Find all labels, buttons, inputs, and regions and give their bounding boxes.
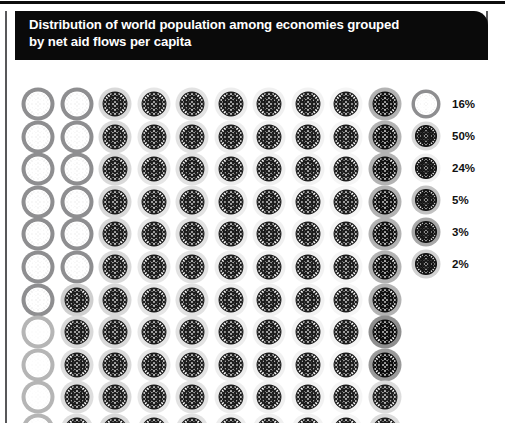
pictogram-globe-icon [329,380,363,414]
pictogram-globe-icon [368,250,402,284]
pictogram-globe-icon [60,380,94,414]
pictogram-globe-icon [60,120,94,154]
pictogram-globe-icon [175,315,209,349]
pictogram-globe-icon [368,120,402,154]
pictogram-globe-icon [329,185,363,219]
pictogram-globe-icon [60,87,94,121]
pictogram-globe-icon [137,250,171,284]
pictogram-globe-icon [175,348,209,382]
pictogram-globe-icon [175,380,209,414]
pictogram-globe-icon [137,413,171,423]
pictogram-globe-icon [21,217,55,251]
pictogram-globe-icon [368,217,402,251]
pictogram-globe-icon [252,283,286,317]
pictogram-globe-icon [137,152,171,186]
pictogram-globe-icon [98,152,132,186]
pictogram-globe-icon [21,315,55,349]
pictogram-globe-icon [368,348,402,382]
legend-item-label: 24% [452,162,475,174]
pictogram-globe-icon [60,152,94,186]
pictogram-globe-icon [329,413,363,423]
pictogram-globe-icon [291,348,325,382]
pictogram-globe-icon [214,348,248,382]
pictogram-globe-icon [137,283,171,317]
globe-icon [411,185,441,215]
pictogram-globe-icon [252,185,286,219]
pictogram-globe-icon [137,348,171,382]
pictogram-globe-icon [60,250,94,284]
chart-header: Distribution of world population among e… [15,11,488,60]
pictogram-grid [21,87,406,423]
legend-item: 3% [411,216,505,248]
pictogram-globe-icon [175,283,209,317]
legend-item-label: 16% [452,98,475,110]
pictogram-globe-icon [137,185,171,219]
globe-icon [411,217,441,247]
pictogram-globe-icon [60,348,94,382]
pictogram-globe-icon [291,120,325,154]
pictogram-globe-icon [214,217,248,251]
pictogram-globe-icon [368,152,402,186]
legend-item-label: 5% [452,194,469,206]
pictogram-globe-icon [137,380,171,414]
pictogram-globe-icon [175,217,209,251]
pictogram-globe-icon [291,380,325,414]
pictogram-globe-icon [214,380,248,414]
pictogram-globe-icon [291,250,325,284]
pictogram-globe-icon [368,315,402,349]
legend-item-label: 3% [452,226,469,238]
pictogram-globe-icon [98,250,132,284]
pictogram-globe-icon [175,120,209,154]
pictogram-globe-icon [329,217,363,251]
pictogram-globe-icon [98,413,132,423]
pictogram-globe-icon [291,283,325,317]
pictogram-globe-icon [21,185,55,219]
legend-item: 50% [411,120,505,152]
pictogram-globe-icon [329,348,363,382]
pictogram-globe-icon [98,348,132,382]
pictogram-globe-icon [98,185,132,219]
pictogram-globe-icon [214,120,248,154]
pictogram-globe-icon [21,348,55,382]
pictogram-globe-icon [291,152,325,186]
pictogram-globe-icon [368,413,402,423]
pictogram-globe-icon [252,120,286,154]
pictogram-globe-icon [21,380,55,414]
pictogram-globe-icon [329,250,363,284]
pictogram-globe-icon [252,152,286,186]
pictogram-globe-icon [137,87,171,121]
pictogram-globe-icon [329,315,363,349]
chart-plot-area: 16%50%24%5%3%2% [15,60,488,423]
pictogram-globe-icon [214,250,248,284]
pictogram-globe-icon [291,87,325,121]
pictogram-globe-icon [329,152,363,186]
infographic-page: Distribution of world population among e… [0,0,505,423]
pictogram-globe-icon [21,250,55,284]
pictogram-globe-icon [21,152,55,186]
pictogram-globe-icon [21,120,55,154]
pictogram-globe-icon [214,413,248,423]
pictogram-globe-icon [329,120,363,154]
pictogram-globe-icon [137,315,171,349]
pictogram-globe-icon [329,87,363,121]
pictogram-globe-icon [252,380,286,414]
pictogram-globe-icon [98,217,132,251]
globe-icon [411,121,441,151]
chart-card: Distribution of world population among e… [5,11,488,423]
pictogram-globe-icon [214,152,248,186]
pictogram-globe-icon [252,348,286,382]
pictogram-globe-icon [21,413,55,423]
pictogram-globe-icon [291,315,325,349]
pictogram-globe-icon [175,185,209,219]
pictogram-globe-icon [98,283,132,317]
pictogram-globe-icon [252,217,286,251]
legend-item: 2% [411,248,505,280]
pictogram-globe-icon [98,380,132,414]
pictogram-globe-icon [252,87,286,121]
pictogram-globe-icon [214,283,248,317]
pictogram-globe-icon [60,413,94,423]
pictogram-globe-icon [60,283,94,317]
pictogram-globe-icon [175,87,209,121]
top-rule-divider [0,1,505,4]
pictogram-globe-icon [137,217,171,251]
